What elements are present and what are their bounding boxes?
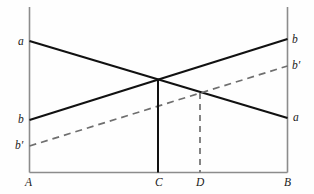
axis-label-b-origin: B bbox=[284, 177, 291, 189]
label-left-mid-b: b bbox=[18, 114, 24, 126]
axis-label-d: D bbox=[196, 177, 204, 189]
axis-label-c: C bbox=[155, 177, 163, 189]
label-left-low-b-prime: b′ bbox=[15, 140, 23, 152]
diagram-canvas: a b b′ b b′ a A B C D bbox=[0, 0, 314, 194]
axis-label-a-origin: A bbox=[25, 177, 32, 189]
label-right-low-a: a bbox=[293, 112, 299, 124]
label-right-mid-b-prime: b′ bbox=[292, 60, 300, 72]
label-right-top-b: b bbox=[292, 34, 298, 46]
label-left-top-a: a bbox=[18, 36, 24, 48]
diagram-svg bbox=[0, 0, 314, 194]
